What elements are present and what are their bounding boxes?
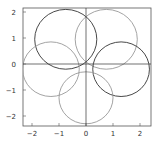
- x-tick-label: 1: [111, 130, 115, 138]
- loop-top-left: [35, 9, 97, 69]
- x-tick-labels: −2−1012: [27, 123, 142, 138]
- flower-curve-chart: −2−1012 210−1−2: [0, 0, 155, 144]
- x-tick-label: 0: [84, 130, 88, 138]
- y-tick-label: 1: [12, 35, 16, 43]
- y-tick-label: 2: [12, 9, 16, 17]
- loop-top-right: [75, 9, 137, 69]
- x-tick-label: 2: [138, 130, 142, 138]
- y-tick-label: −1: [6, 87, 16, 95]
- plot-frame: [23, 8, 151, 126]
- y-tick-label: −2: [6, 113, 16, 121]
- x-tick-label: −2: [27, 130, 37, 138]
- y-tick-label: 0: [12, 61, 16, 69]
- x-tick-label: −1: [54, 130, 64, 138]
